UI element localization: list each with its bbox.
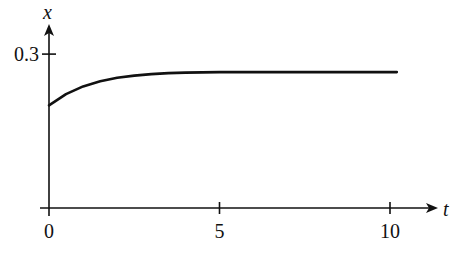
x-axis-label: t: [443, 198, 449, 220]
x-tick-label: 5: [215, 220, 225, 242]
y-axis-label: x: [42, 1, 52, 23]
y-tick-label: 0.3: [14, 43, 39, 65]
x-tick-label: 0: [44, 220, 54, 242]
chart: t x 0510 0.3: [0, 0, 463, 255]
data-line: [49, 72, 397, 105]
x-tick-label: 10: [380, 220, 400, 242]
